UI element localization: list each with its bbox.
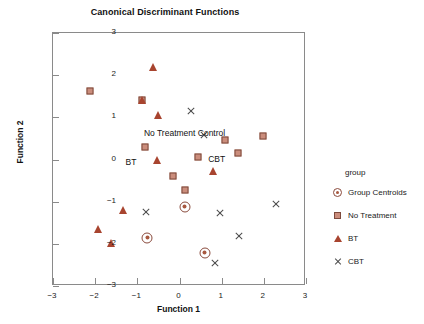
- centroid-icon: [331, 188, 344, 197]
- annotation-label: CBT: [208, 154, 225, 164]
- data-point-triangle: [153, 156, 161, 164]
- x-tick-label: −2: [84, 291, 104, 300]
- y-tick: [53, 33, 59, 34]
- y-tick: [53, 244, 59, 245]
- data-point-centroid: [142, 232, 153, 243]
- data-point-square: [170, 172, 177, 179]
- data-point-cross: [141, 207, 150, 216]
- data-point-cross: [211, 259, 220, 268]
- y-tick: [53, 75, 59, 76]
- x-tick-label: −3: [42, 291, 62, 300]
- x-tick: [180, 278, 181, 284]
- plot-area: No Treatment ControlBTCBT: [52, 32, 305, 285]
- y-tick-label: 2: [96, 69, 116, 78]
- cross-icon: [331, 258, 344, 266]
- annotation-label: No Treatment Control: [144, 128, 225, 138]
- data-point-square: [181, 187, 188, 194]
- data-points-layer: [53, 33, 304, 129]
- y-tick: [53, 202, 59, 203]
- legend-item-label: No Treatment: [348, 211, 396, 220]
- legend: group Group CentroidsNo TreatmentBTCBT: [331, 168, 423, 278]
- x-tick: [264, 278, 265, 284]
- legend-item-bt[interactable]: BT: [331, 232, 423, 245]
- x-axis-title: Function 1: [52, 304, 305, 314]
- legend-item-no-treatment[interactable]: No Treatment: [331, 209, 423, 222]
- data-point-triangle: [209, 167, 217, 175]
- y-tick-label: −2: [96, 238, 116, 247]
- x-tick: [306, 278, 307, 284]
- page-title: Canonical Discriminant Functions: [0, 7, 330, 17]
- data-point-triangle: [154, 111, 162, 119]
- data-point-square: [195, 154, 202, 161]
- triangle-icon: [331, 235, 344, 242]
- x-tick-label: 1: [211, 291, 231, 300]
- data-point-square: [259, 132, 266, 139]
- data-point-triangle: [119, 206, 127, 214]
- x-tick-label: 2: [253, 291, 273, 300]
- data-point-square: [86, 87, 93, 94]
- y-tick-label: −3: [96, 280, 116, 289]
- data-point-cross: [215, 209, 224, 218]
- data-point-triangle: [149, 63, 157, 71]
- x-tick-label: −1: [126, 291, 146, 300]
- y-tick: [53, 160, 59, 161]
- data-point-cross: [234, 232, 243, 241]
- legend-item-cbt[interactable]: CBT: [331, 255, 423, 268]
- x-tick-label: 3: [295, 291, 315, 300]
- x-tick: [53, 278, 54, 284]
- y-tick: [53, 286, 59, 287]
- data-point-square: [235, 150, 242, 157]
- x-tick: [222, 278, 223, 284]
- data-point-triangle: [138, 96, 146, 104]
- legend-item-group-centroids[interactable]: Group Centroids: [331, 186, 423, 199]
- annotation-label: BT: [126, 157, 137, 167]
- data-point-centroid: [179, 201, 190, 212]
- legend-rows: Group CentroidsNo TreatmentBTCBT: [331, 186, 423, 268]
- legend-item-label: CBT: [348, 257, 364, 266]
- data-point-square: [141, 144, 148, 151]
- y-tick-label: −1: [96, 196, 116, 205]
- legend-title: group: [345, 168, 423, 177]
- canonical-discriminant-chart: Canonical Discriminant Functions No Trea…: [0, 0, 424, 324]
- data-point-triangle: [94, 225, 102, 233]
- y-tick-label: 1: [96, 111, 116, 120]
- y-tick-label: 0: [96, 154, 116, 163]
- y-axis-title: Function 2: [15, 87, 25, 197]
- y-tick-label: 3: [96, 27, 116, 36]
- data-point-cross: [272, 199, 281, 208]
- x-tick: [137, 278, 138, 284]
- legend-item-label: Group Centroids: [348, 188, 407, 197]
- legend-item-label: BT: [348, 234, 358, 243]
- data-point-centroid: [199, 247, 210, 258]
- y-tick: [53, 117, 59, 118]
- square-icon: [331, 212, 344, 219]
- data-point-cross: [186, 107, 195, 116]
- x-tick-label: 0: [169, 291, 189, 300]
